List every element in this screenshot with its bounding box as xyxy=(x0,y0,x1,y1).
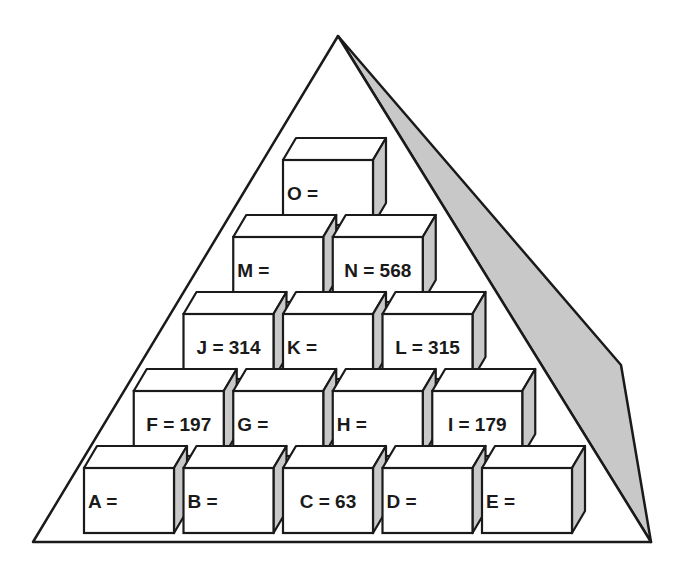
block-label: I = 179 xyxy=(448,414,507,435)
block-n: N = 568 xyxy=(333,215,436,302)
block-label: O = xyxy=(287,183,318,204)
block-i: I = 179 xyxy=(432,369,535,456)
block-e: E = xyxy=(482,446,585,533)
block-label: G = xyxy=(237,414,268,435)
block-b: B = xyxy=(184,446,287,533)
block-top-face xyxy=(383,292,486,314)
block-top-face xyxy=(333,215,436,237)
block-top-face xyxy=(482,446,585,468)
block-top-face xyxy=(84,446,187,468)
block-top-face xyxy=(184,292,287,314)
block-top-face xyxy=(283,292,386,314)
block-top-face xyxy=(283,138,386,160)
block-m: M = xyxy=(233,215,336,302)
block-d: D = xyxy=(383,446,486,533)
block-j: J = 314 xyxy=(184,292,287,379)
block-c: C = 63 xyxy=(283,446,386,533)
block-label: D = xyxy=(387,491,417,512)
block-label: E = xyxy=(486,491,515,512)
block-label: H = xyxy=(337,414,367,435)
pyramid-diagram: O =M =N = 568J = 314K =L = 315F = 197G =… xyxy=(0,0,686,584)
block-label: C = 63 xyxy=(300,491,357,512)
block-top-face xyxy=(134,369,237,391)
block-l: L = 315 xyxy=(383,292,486,379)
block-top-face xyxy=(383,446,486,468)
block-label: M = xyxy=(237,260,269,281)
block-f: F = 197 xyxy=(134,369,237,456)
block-top-face xyxy=(333,369,436,391)
block-a: A = xyxy=(84,446,187,533)
block-label: K = xyxy=(287,337,317,358)
block-top-face xyxy=(184,446,287,468)
block-label: F = 197 xyxy=(146,414,211,435)
block-o: O = xyxy=(283,138,386,225)
block-top-face xyxy=(233,215,336,237)
block-label: A = xyxy=(88,491,117,512)
block-h: H = xyxy=(333,369,436,456)
block-label: L = 315 xyxy=(395,337,460,358)
block-top-face xyxy=(432,369,535,391)
block-g: G = xyxy=(233,369,336,456)
block-k: K = xyxy=(283,292,386,379)
block-label: N = 568 xyxy=(344,260,411,281)
block-label: J = 314 xyxy=(197,337,261,358)
block-top-face xyxy=(233,369,336,391)
block-top-face xyxy=(283,446,386,468)
block-label: B = xyxy=(188,491,218,512)
